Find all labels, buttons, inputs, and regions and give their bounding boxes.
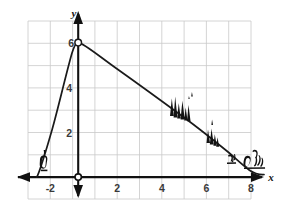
graph-screenshot: x y -2 2 4 6 8 2 4 6 bbox=[0, 0, 293, 214]
x-tick-label-2: 2 bbox=[114, 182, 120, 194]
y-axis-label: y bbox=[70, 7, 77, 19]
x-tick-label-4: 4 bbox=[159, 182, 165, 194]
coordinate-plane-figure: x y -2 2 4 6 8 2 4 6 bbox=[0, 0, 293, 214]
x-tick-label-8: 8 bbox=[248, 182, 254, 194]
origin-marker bbox=[75, 174, 81, 180]
y-tick-label-6: 6 bbox=[68, 37, 74, 49]
x-tick-label-6: 6 bbox=[203, 182, 209, 194]
x-tick-label--2: -2 bbox=[46, 182, 55, 194]
y-tick-label-2: 2 bbox=[66, 127, 72, 139]
x-axis-label: x bbox=[267, 171, 274, 183]
peak-point-marker bbox=[75, 39, 82, 46]
y-tick-label-4: 4 bbox=[66, 82, 72, 94]
